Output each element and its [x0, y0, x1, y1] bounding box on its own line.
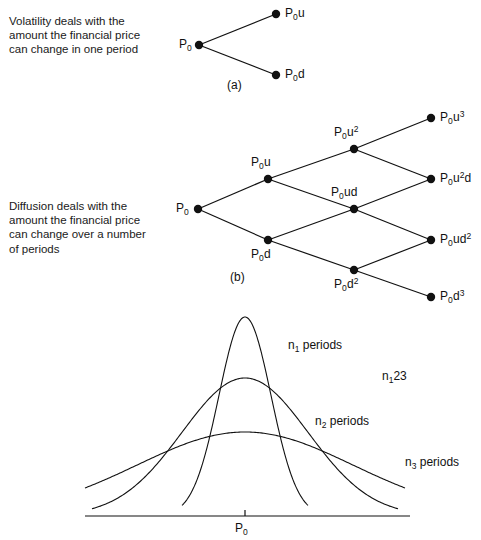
- tree-edge: [268, 240, 354, 270]
- panel-a-label: (a): [227, 78, 242, 92]
- tree-node-dot: [195, 41, 203, 49]
- tree-node-dot: [350, 145, 358, 153]
- tree-node-label: P0u: [285, 6, 305, 20]
- tree-node-dot: [264, 175, 272, 183]
- tree-edge: [354, 118, 431, 149]
- tree-edge: [198, 209, 268, 240]
- tree-node-label: P0u2d: [440, 171, 471, 185]
- tree-node-label: P0u2: [334, 125, 359, 139]
- distribution-curve: [85, 432, 405, 488]
- panel-c-distribution-curves: [85, 317, 405, 509]
- panel-a-edges: [199, 14, 276, 75]
- tree-node-dot: [350, 205, 358, 213]
- tree-edge: [354, 179, 431, 209]
- tree-node-dot: [194, 205, 202, 213]
- binomial-tree-and-distribution-figure: Volatility deals with the amount the fin…: [0, 0, 481, 540]
- tree-node-dot: [272, 71, 280, 79]
- tree-edge: [268, 149, 354, 179]
- panel-b-label: (b): [230, 270, 245, 284]
- tree-node-label: P0: [176, 201, 189, 215]
- tree-node-label: P0d: [285, 67, 305, 81]
- panel-a-caption: Volatility deals with the amount the fin…: [9, 14, 187, 57]
- tree-node-label: P0ud: [331, 185, 358, 199]
- tree-edge: [354, 149, 431, 179]
- curve-series-label: n3 periods: [405, 455, 459, 469]
- tree-node-label: P0d3: [440, 289, 465, 303]
- tree-node-dot: [272, 10, 280, 18]
- tree-edge: [354, 270, 431, 297]
- distribution-curve: [92, 378, 398, 509]
- periods-inequality-label: n123: [382, 369, 407, 383]
- tree-edge: [354, 240, 431, 270]
- tree-node-label: P0d2: [334, 277, 359, 291]
- panel-b-caption: Diffusion deals with the amount the fina…: [9, 199, 191, 256]
- panel-c-axis: [85, 510, 410, 516]
- curve-series-label: n2 periods: [315, 414, 369, 428]
- curve-series-label: n1 periods: [288, 338, 342, 352]
- tree-node-dot: [427, 293, 435, 301]
- tree-node-dot: [350, 266, 358, 274]
- tree-node-label: P0u3: [440, 110, 465, 124]
- tree-node-label: P0ud2: [440, 232, 471, 246]
- tree-node-dot: [427, 236, 435, 244]
- panel-a-nodes: [195, 10, 280, 79]
- tree-node-label: P0d: [251, 247, 271, 261]
- tree-edge: [354, 209, 431, 240]
- tree-node-dot: [264, 236, 272, 244]
- axis-tick-label-p0: P0: [235, 521, 248, 535]
- tree-edge: [199, 14, 276, 45]
- tree-edge: [268, 209, 354, 240]
- tree-node-dot: [427, 114, 435, 122]
- tree-node-label: P0: [179, 37, 192, 51]
- tree-edge: [199, 45, 276, 75]
- tree-node-label: P0u: [251, 155, 271, 169]
- tree-node-dot: [427, 175, 435, 183]
- tree-edge: [198, 179, 268, 209]
